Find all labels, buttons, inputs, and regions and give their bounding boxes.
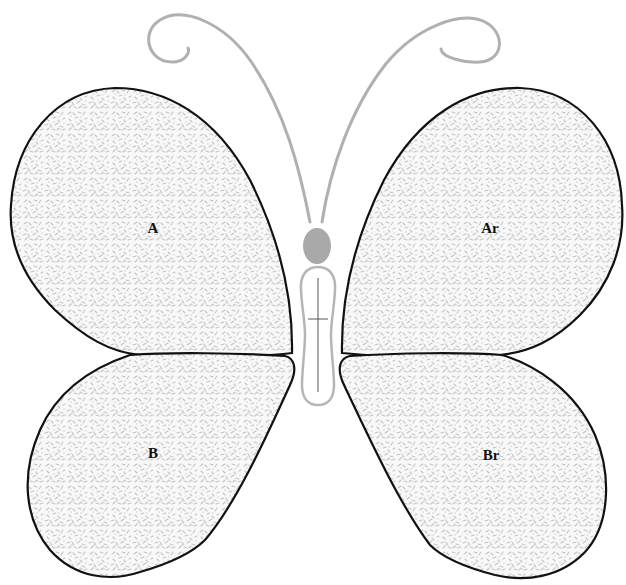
head xyxy=(303,228,331,264)
wing-label-a: A xyxy=(148,220,159,237)
wing-lower-left xyxy=(28,353,295,577)
wing-label-ar: Ar xyxy=(481,220,499,237)
wing-label-b: B xyxy=(148,445,158,462)
butterfly-drawing xyxy=(0,0,626,585)
wing-label-br: Br xyxy=(483,447,500,464)
butterfly-diagram: A Ar B Br xyxy=(0,0,626,585)
wing-lower-right xyxy=(340,353,606,578)
